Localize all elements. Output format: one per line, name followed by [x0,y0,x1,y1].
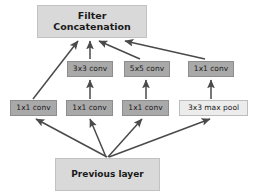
inception-module-diagram: Filter Concatenation 3x3 conv 5x5 conv 1… [0,0,255,194]
node-conv-1x1-a: 1x1 conv [10,100,57,116]
edge-prev-to-conv1x1-b [90,119,106,157]
node-conv-1x1-b: 1x1 conv [66,100,113,116]
node-max-pool-3x3: 3x3 max pool [179,100,248,116]
node-previous-layer: Previous layer [55,158,160,191]
edge-prev-to-conv1x1-a [36,119,107,157]
node-conv-3x3: 3x3 conv [67,61,113,77]
node-conv-5x5: 5x5 conv [124,61,170,77]
node-filter-concatenation: Filter Concatenation [37,5,147,38]
node-conv-1x1-c: 1x1 conv [122,100,169,116]
edge-conv1x1top-to-concat [125,41,205,59]
node-conv-1x1-top: 1x1 conv [188,61,234,77]
